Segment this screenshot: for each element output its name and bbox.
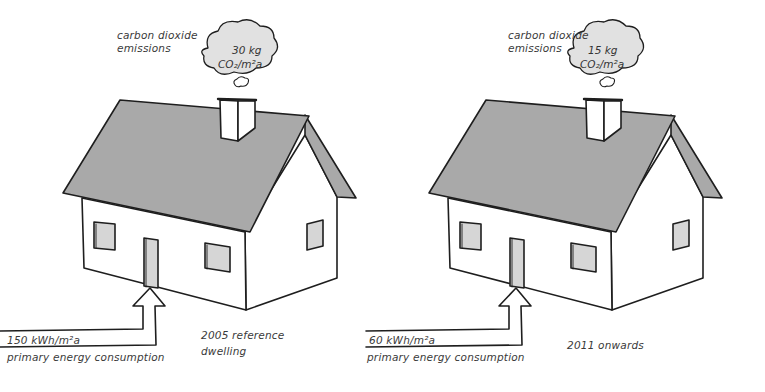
caption-line2: dwelling [201,345,284,358]
energy-label: primary energy consumption [367,351,525,364]
emissions-unit: CO₂/m²a [218,57,262,71]
emissions-label: carbon dioxide emissions [508,29,589,55]
energy-label: primary energy consumption [7,351,165,364]
energy-value: 150 kWh/m²a [7,334,80,347]
caption-line1: 2005 reference [201,329,284,342]
emissions-value: 15 kg [580,43,624,57]
house-2011-onwards [366,20,722,347]
emissions-cloud-text: 15 kg CO₂/m²a [580,43,624,71]
caption-line1: 2011 onwards [567,339,644,352]
house-caption: 2011 onwards [567,339,644,352]
house-caption: 2005 reference dwelling [201,329,284,358]
emissions-unit: CO₂/m²a [580,57,624,71]
emissions-label-line2: emissions [508,42,589,55]
house-2005-reference [0,20,356,347]
emissions-label-line2: emissions [117,42,198,55]
emissions-cloud-text: 30 kg CO₂/m²a [218,43,262,71]
emissions-value: 30 kg [218,43,262,57]
energy-value: 60 kWh/m²a [369,334,435,347]
emissions-label-line1: carbon dioxide [117,29,198,42]
emissions-label: carbon dioxide emissions [117,29,198,55]
emissions-label-line1: carbon dioxide [508,29,589,42]
